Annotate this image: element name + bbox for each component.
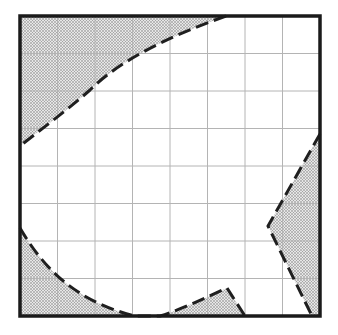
bottom-center-shaded-region [160, 288, 245, 316]
top-left-shaded-region [20, 16, 226, 146]
right-shaded-region [268, 134, 320, 316]
shaded-grid-diagram [0, 0, 338, 335]
